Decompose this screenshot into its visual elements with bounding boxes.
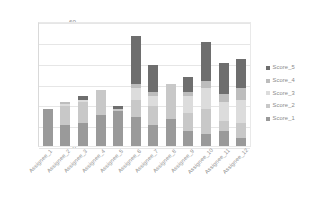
bar-segment-score_1[interactable] [148,125,158,146]
bar-segment-score_1[interactable] [43,109,53,147]
legend-swatch-icon [266,79,270,83]
bar-segment-score_3[interactable] [201,88,211,109]
bar-segment-score_3[interactable] [183,96,193,113]
legend-swatch-icon [266,104,270,108]
bar-column[interactable] [110,23,127,146]
legend-item-score_3[interactable]: Score_3 [266,87,326,100]
bar-segment-score_5[interactable] [219,63,229,94]
bar-column[interactable] [180,23,197,146]
bar-segment-score_1[interactable] [96,115,106,146]
bar-segment-score_3[interactable] [148,96,158,106]
bar-column[interactable] [92,23,109,146]
bar-column[interactable] [233,23,250,146]
bar-segment-score_2[interactable] [96,90,106,115]
bar-stack [236,59,246,146]
bar-segment-score_4[interactable] [236,88,246,101]
legend-label: Score_5 [273,65,295,71]
legend-label: Score_2 [273,103,295,109]
x-axis-labels: Assignee_1Assignee_2Assignee_3Assignee_4… [38,148,251,201]
bar-segment-score_1[interactable] [201,134,211,147]
bar-column[interactable] [127,23,144,146]
legend-item-score_4[interactable]: Score_4 [266,75,326,88]
bar-stack [219,63,229,146]
bar-segment-score_5[interactable] [236,59,246,88]
bar-stack [166,84,176,146]
bar-stack [201,42,211,146]
bar-segment-score_2[interactable] [166,84,176,119]
bar-segment-score_1[interactable] [219,131,229,146]
bar-column[interactable] [39,23,56,146]
bar-series-container [39,23,250,146]
bar-segment-score_1[interactable] [113,111,123,146]
legend-label: Score_4 [273,78,295,84]
legend-item-score_2[interactable]: Score_2 [266,100,326,113]
bar-stack [113,106,123,146]
bar-segment-score_1[interactable] [60,125,70,146]
bar-segment-score_1[interactable] [131,117,141,146]
bar-segment-score_1[interactable] [78,123,88,146]
bar-segment-score_3[interactable] [219,102,229,121]
bar-segment-score_2[interactable] [78,102,88,123]
bar-segment-score_5[interactable] [201,42,211,82]
plot-area [38,22,251,147]
bar-segment-score_2[interactable] [148,106,158,125]
bar-stack [43,109,53,147]
bar-segment-score_2[interactable] [183,113,193,132]
bar-column[interactable] [197,23,214,146]
bar-segment-score_3[interactable] [131,88,141,101]
bar-segment-score_2[interactable] [201,109,211,134]
bar-stack [131,36,141,146]
legend-item-score_5[interactable]: Score_5 [266,62,326,75]
bar-segment-score_5[interactable] [183,77,193,92]
bar-segment-score_2[interactable] [60,106,70,125]
bar-stack [148,65,158,146]
stacked-bar-chart: 0102030405060 Assignee_1Assignee_2Assign… [0,0,329,201]
bar-segment-score_3[interactable] [236,100,246,123]
legend-item-score_1[interactable]: Score_1 [266,112,326,125]
legend-swatch-icon [266,91,270,95]
bar-stack [96,90,106,146]
bar-segment-score_5[interactable] [148,65,158,92]
bar-column[interactable] [57,23,74,146]
bar-segment-score_2[interactable] [236,123,246,138]
bar-column[interactable] [145,23,162,146]
legend-label: Score_3 [273,91,295,97]
bar-column[interactable] [74,23,91,146]
bar-stack [183,77,193,146]
bar-segment-score_5[interactable] [131,36,141,84]
bar-stack [60,102,70,146]
legend-label: Score_1 [273,116,295,122]
bar-stack [78,96,88,146]
bar-segment-score_2[interactable] [131,100,141,117]
bar-segment-score_1[interactable] [183,131,193,146]
bar-column[interactable] [215,23,232,146]
bar-segment-score_2[interactable] [219,121,229,131]
bar-segment-score_4[interactable] [219,94,229,102]
bar-segment-score_1[interactable] [166,119,176,146]
chart-legend: Score_5Score_4Score_3Score_2Score_1 [266,62,326,125]
bar-segment-score_1[interactable] [236,138,246,146]
legend-swatch-icon [266,66,270,70]
legend-swatch-icon [266,117,270,121]
bar-column[interactable] [162,23,179,146]
